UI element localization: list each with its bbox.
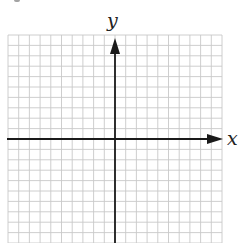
x-axis-arrow-icon — [207, 134, 223, 144]
y-axis-label: y — [106, 9, 118, 31]
x-axis-label: x — [227, 127, 238, 149]
grid-svg: x y — [0, 0, 239, 243]
coordinate-plane: x y — [0, 0, 239, 243]
y-axis-arrow-icon — [110, 38, 120, 54]
